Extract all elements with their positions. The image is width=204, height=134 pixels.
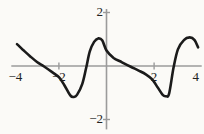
function-plot: −22−442−2 [0, 0, 204, 134]
figure: −22−442−2 [0, 0, 204, 134]
x-end-label: 4 [192, 69, 199, 84]
x-end-label: −4 [8, 69, 22, 84]
y-tick-label: 2 [97, 4, 104, 19]
y-tick-label: −2 [89, 111, 103, 126]
